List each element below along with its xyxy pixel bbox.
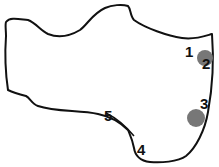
label-2: 2 [202,56,210,71]
region-outline [0,0,219,167]
outline-path [5,5,212,162]
label-1: 1 [185,44,193,59]
diagram-canvas: 1 2 3 4 5 [0,0,219,167]
label-4: 4 [137,142,145,157]
label-5: 5 [104,108,112,123]
label-3: 3 [200,96,208,111]
